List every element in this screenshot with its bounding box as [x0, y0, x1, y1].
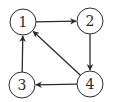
node-label: 2 [86, 13, 95, 29]
node-4: 4 [77, 71, 103, 97]
graph-svg: 1234 [0, 0, 113, 102]
node-label: 3 [18, 77, 27, 93]
directed-graph-diagram: 1234 [0, 0, 113, 102]
node-1: 1 [10, 9, 36, 35]
node-label: 1 [19, 14, 28, 30]
node-2: 2 [77, 8, 103, 34]
edge-4-to-3 [36, 84, 77, 85]
node-label: 4 [86, 76, 95, 92]
edge-4-to-1 [33, 32, 80, 76]
edge-3-to-1 [22, 36, 23, 72]
edge-1-to-2 [36, 21, 76, 22]
node-3: 3 [9, 72, 35, 98]
